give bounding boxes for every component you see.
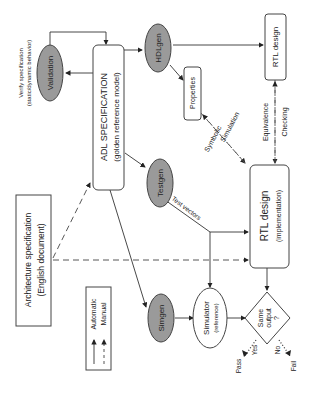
legend-automatic-label: Automatic — [90, 298, 97, 330]
test-vectors-label: Test vectors — [171, 195, 204, 222]
rtl-impl-line2: (implementation) — [275, 190, 283, 242]
validation-label: Validation — [46, 56, 55, 91]
adl-line1: ADL SPECIFICATION — [99, 73, 109, 161]
equivalence-label: Equivalence — [262, 103, 270, 141]
rtl-impl-line1: RTL design — [259, 191, 270, 242]
arch-line2: (English document) — [36, 223, 46, 296]
edge-adl-simgen — [110, 190, 146, 307]
adl-specification-node: ADL SPECIFICATION (golden reference mode… — [93, 45, 124, 190]
simulation-label: Simulation — [219, 111, 241, 143]
simulator-line2: (reference) — [213, 303, 219, 332]
architecture-specification-node: Architecture specification (English docu… — [16, 195, 51, 326]
decision-line3: ? — [273, 316, 280, 320]
fail-label: Fail — [290, 360, 297, 371]
arch-line1: Architecture specification — [23, 212, 33, 307]
decision-line2: output — [265, 308, 273, 328]
pass-label: Pass — [235, 358, 242, 373]
legend: Automatic Manual — [86, 287, 111, 370]
rtl-implementation-node: RTL design (implementation) — [250, 165, 289, 268]
checking-label: Checking — [281, 107, 289, 136]
yes-label: Yes — [251, 344, 258, 355]
properties-label: Properties — [189, 77, 197, 109]
no-label: No — [274, 345, 281, 354]
validation-note-line1: Verify specification — [18, 48, 24, 98]
edge-arch-adl-manual — [53, 183, 90, 258]
decision-line1: Same — [257, 309, 264, 327]
same-output-decision: Same output ? — [245, 292, 290, 344]
simgen-label: Simgen — [157, 304, 166, 331]
pass-arrowhead — [242, 350, 248, 357]
edge-hdlgen-properties — [170, 65, 183, 80]
properties-node: Properties — [184, 67, 201, 120]
testgen-label: Testgen — [156, 169, 165, 197]
rtl-top-label: RTL design — [271, 27, 280, 67]
edge-validation-loop — [50, 32, 106, 45]
hdlgen-label: HDLgen — [154, 33, 163, 62]
verification-flow-diagram: Validation Verify specification (static/… — [0, 0, 316, 393]
simgen-node: Simgen — [148, 294, 174, 342]
legend-manual-label: Manual — [100, 302, 107, 325]
rtl-design-top-node: RTL design — [265, 14, 286, 80]
edge-adl-testgen — [125, 153, 145, 167]
adl-line2: (golden reference model) — [112, 72, 121, 162]
simulator-line1: Simulator — [202, 301, 211, 335]
testgen-node: Testgen — [147, 159, 173, 207]
hdlgen-node: HDLgen — [145, 24, 171, 72]
simulator-node: Simulator (reference) — [193, 288, 227, 348]
validation-node: Validation — [37, 45, 63, 101]
validation-note-line2: (static/dynamic behavior) — [26, 40, 32, 107]
